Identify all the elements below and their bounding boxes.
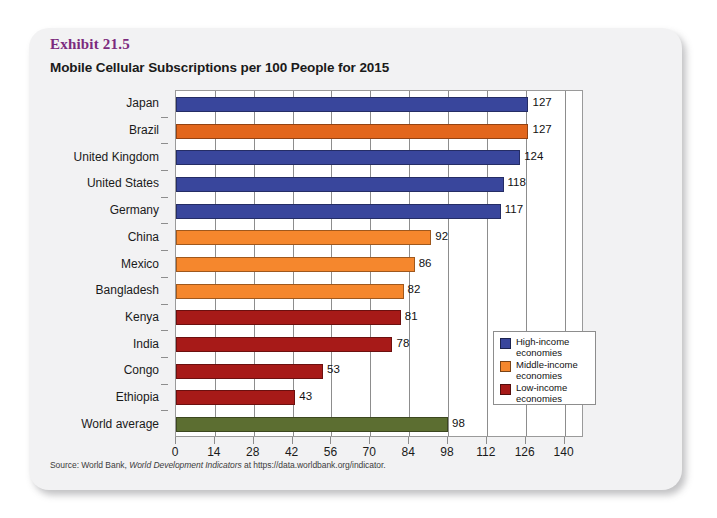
x-tick-label-112: 112 <box>476 446 495 458</box>
legend-label: Middle-incomeeconomies <box>516 360 578 381</box>
legend-label: Low-incomeeconomies <box>516 383 567 404</box>
x-tick-126 <box>525 437 526 444</box>
x-tick-label-84: 84 <box>401 446 414 458</box>
exhibit-number-label: Exhibit 21.5 <box>50 36 130 53</box>
bar-value-label: 86 <box>419 258 432 270</box>
exhibit-title: Mobile Cellular Subscriptions per 100 Pe… <box>50 60 389 75</box>
x-tick-140 <box>564 437 565 444</box>
legend-swatch-icon <box>500 361 511 372</box>
x-tick-42 <box>292 437 293 444</box>
category-tick <box>161 250 168 251</box>
category-tick <box>161 223 168 224</box>
bar-value-label: 78 <box>396 338 409 350</box>
category-tick <box>161 143 168 144</box>
category-tick <box>161 410 168 411</box>
x-tick-label-28: 28 <box>246 446 259 458</box>
source-note: Source: World Bank, World Development In… <box>50 460 386 470</box>
bar-value-label: 124 <box>524 151 543 163</box>
legend-item: Middle-incomeeconomies <box>500 360 590 381</box>
legend-item: Low-incomeeconomies <box>500 383 590 404</box>
x-tick-0 <box>175 437 176 444</box>
x-tick-label-70: 70 <box>363 446 376 458</box>
category-tick <box>161 330 168 331</box>
category-label-mexico: Mexico <box>121 258 159 270</box>
x-tick-label-56: 56 <box>324 446 337 458</box>
category-label-ethiopia: Ethiopia <box>116 391 159 403</box>
category-label-united-kingdom: United Kingdom <box>74 151 159 163</box>
exhibit-card: Exhibit 21.5 Mobile Cellular Subscriptio… <box>29 28 682 490</box>
x-tick-label-126: 126 <box>515 446 535 458</box>
x-tick-label-14: 14 <box>207 446 220 458</box>
x-tick-98 <box>447 437 448 444</box>
source-publication: World Development Indicators <box>129 460 241 470</box>
chart-legend: High-incomeeconomiesMiddle-incomeeconomi… <box>493 331 596 405</box>
category-tick <box>161 117 168 118</box>
x-tick-56 <box>330 437 331 444</box>
screenshot-root: Exhibit 21.5 Mobile Cellular Subscriptio… <box>0 0 717 518</box>
category-tick <box>161 170 168 171</box>
category-axis-labels: JapanBrazilUnited KingdomUnited StatesGe… <box>29 90 168 437</box>
bar-value-label: 98 <box>452 418 465 430</box>
category-tick <box>161 384 168 385</box>
category-tick <box>161 304 168 305</box>
legend-label: High-incomeeconomies <box>516 337 569 358</box>
source-prefix: Source: World Bank, <box>50 460 127 470</box>
x-tick-14 <box>214 437 215 444</box>
bar-value-label: 43 <box>299 391 312 403</box>
bar-value-label: 81 <box>405 311 418 323</box>
x-tick-70 <box>369 437 370 444</box>
category-label-japan: Japan <box>126 97 159 109</box>
category-label-united-states: United States <box>87 177 159 189</box>
category-label-bangladesh: Bangladesh <box>96 284 159 296</box>
category-label-germany: Germany <box>110 204 159 216</box>
category-tick <box>161 357 168 358</box>
bar-value-label: 92 <box>435 231 448 243</box>
bar-value-label: 118 <box>508 177 526 189</box>
legend-swatch-icon <box>500 338 511 349</box>
bar-value-label: 127 <box>532 124 551 136</box>
category-label-brazil: Brazil <box>129 124 159 136</box>
legend-item: High-incomeeconomies <box>500 337 590 358</box>
bar-value-label: 82 <box>408 284 421 296</box>
category-label-india: India <box>133 338 159 350</box>
category-label-congo: Congo <box>124 364 159 376</box>
bar-value-label: 117 <box>505 204 523 216</box>
x-tick-112 <box>486 437 487 444</box>
x-tick-28 <box>253 437 254 444</box>
x-tick-label-0: 0 <box>172 446 179 458</box>
category-tick <box>161 277 168 278</box>
legend-swatch-icon <box>500 384 511 395</box>
x-tick-label-42: 42 <box>285 446 298 458</box>
bar-value-label: 53 <box>327 364 340 376</box>
x-tick-label-140: 140 <box>554 446 574 458</box>
x-tick-label-98: 98 <box>440 446 453 458</box>
category-label-world-average: World average <box>81 418 159 430</box>
x-tick-84 <box>408 437 409 444</box>
category-label-china: China <box>128 231 159 243</box>
category-label-kenya: Kenya <box>125 311 159 323</box>
category-tick <box>161 197 168 198</box>
source-suffix: at https://data.worldbank.org/indicator. <box>244 460 386 470</box>
bar-value-label: 127 <box>532 97 551 109</box>
